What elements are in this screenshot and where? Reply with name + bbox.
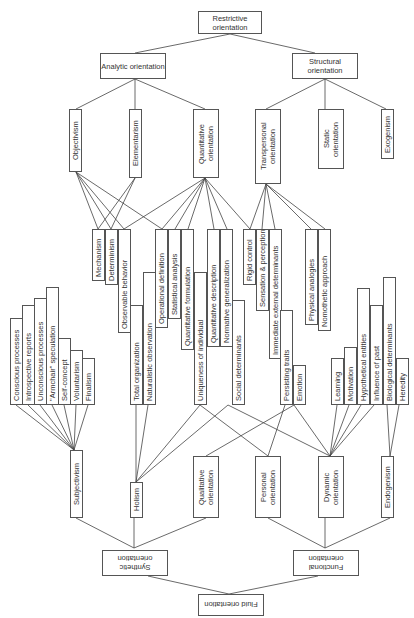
attr-quantitative-formulation: Quantitative formulation — [181, 229, 194, 350]
node-label: Static orientation — [322, 113, 340, 165]
attr-nomothetic-approach: Nomothetic approach — [318, 229, 331, 331]
attr-label: Uniqueness of individual — [196, 320, 205, 401]
attr-influence-of-past: Influence of past — [370, 305, 383, 405]
attr-label: Voluntarism — [72, 362, 81, 401]
node-dynamic-orientation: Dynamic orientation — [318, 456, 344, 518]
node-label: Structural orientation — [293, 57, 357, 75]
node-label: Subjectivism — [72, 463, 81, 505]
attr-label: Hypothetical entities — [359, 334, 368, 401]
attr-label: Biological determinants — [385, 323, 394, 401]
node-label: Restrictive orientation — [199, 14, 261, 32]
attr-label: Normative generalization — [222, 260, 231, 343]
attr-uniqueness-of-individual: Uniqueness of individual — [194, 272, 207, 405]
node-synthetic-orientation: Synthetic orientation — [102, 550, 168, 576]
node-holism: Holism — [130, 482, 143, 518]
node-quantitative-orientation: Quantitative orientation — [193, 109, 219, 178]
attr-motivation: Motivation — [344, 347, 357, 405]
attr-statistical-analysis: Statistical analysis — [168, 229, 181, 319]
node-qualitative-orientation: Qualitative orientation — [193, 456, 219, 518]
node-transpersonal-orientation: Transpersonal orientation — [255, 109, 281, 184]
node-label: Holism — [132, 489, 141, 512]
attr-emotion: Emotion — [293, 365, 306, 405]
node-personal-orientation: Personal orientation — [255, 456, 281, 518]
node-label: Functional orientation — [294, 554, 358, 572]
node-label: Elementarism — [131, 121, 140, 167]
attr-label: Determinism — [107, 239, 116, 281]
attr-hypothetical-entities: Hypothetical entities — [357, 288, 370, 405]
node-label: Analytic orientation — [101, 62, 164, 71]
attr-label: Introspective reports — [24, 333, 33, 401]
attr-label: Unconscious processes — [36, 322, 45, 401]
node-label: Transpersonal orientation — [259, 113, 277, 180]
attr-label: Heredity — [398, 373, 407, 401]
node-restrictive-orientation: Restrictive orientation — [198, 11, 262, 34]
attr-naturalistic-observation: Naturalistic observation — [143, 272, 156, 405]
attr-label: Physical analogies — [307, 259, 316, 321]
attr-label: Total organization — [132, 342, 141, 401]
attr-label: Immediate external determinants — [271, 246, 280, 355]
attr-label: Learning — [333, 372, 342, 401]
attr-label: Mechanism — [94, 239, 103, 277]
attr-biological-determinants: Biological determinants — [383, 277, 396, 405]
node-objectivism: Objectivism — [69, 109, 82, 172]
node-structural-orientation: Structural orientation — [292, 53, 358, 79]
attr-label: Sensation & perception — [258, 229, 267, 307]
attr-social-determinants: Social determinants — [232, 300, 245, 405]
attr-label: Rigid control — [245, 239, 254, 281]
attr-rigid-control: Rigid control — [243, 229, 256, 285]
node-elementarism: Elementarism — [129, 109, 142, 178]
node-exogenism: Exogenism — [381, 109, 394, 159]
node-fluid-orientation: Fluid orientation — [198, 594, 264, 616]
attr-label: Statistical analysis — [170, 254, 179, 315]
attr-physical-analogies: Physical analogies — [305, 229, 318, 325]
node-label: Qualitative orientation — [197, 460, 215, 514]
node-endogenism: Endogenism — [381, 456, 394, 518]
attr-label: Nomothetic approach — [320, 256, 329, 327]
attr-label: Self-concept — [60, 359, 69, 401]
attr-sensation-perception: Sensation & perception — [256, 229, 269, 311]
node-label: Objectivism — [71, 121, 80, 160]
attr-label: Conscious processes — [12, 330, 21, 401]
attr-mechanism: Mechanism — [92, 229, 105, 281]
attr-label: Influence of past — [372, 346, 381, 401]
attr-finalism: Finalism — [82, 358, 95, 405]
attr-total-organization: Total organization — [130, 305, 143, 405]
node-label: Endogenism — [383, 466, 392, 508]
node-subjectivism: Subjectivism — [70, 450, 83, 518]
node-analytic-orientation: Analytic orientation — [100, 53, 166, 79]
attr-label: "Armchair" speculation — [48, 326, 57, 401]
attr-operational-definition: Operational definition — [155, 229, 168, 328]
node-label: Fluid orientation — [204, 601, 257, 610]
attr-label: Quantitative formulation — [183, 267, 192, 346]
attr-heredity: Heredity — [396, 358, 409, 405]
node-label: Dynamic orientation — [322, 460, 340, 514]
attr-label: Operational definition — [157, 253, 166, 324]
attr-label: Motivation — [346, 367, 355, 401]
node-label: Synthetic orientation — [103, 554, 167, 572]
attr-label: Observable behavior — [120, 260, 129, 329]
attr-label: Quantitative description — [209, 265, 218, 343]
attr-label: Emotion — [295, 373, 304, 401]
attr-label: Naturalistic observation — [145, 323, 154, 401]
attr-label: Social determinants — [234, 335, 243, 401]
node-label: Personal orientation — [259, 460, 277, 514]
attr-label: Persisting traits — [282, 350, 291, 401]
attr-label: Finalism — [84, 373, 93, 401]
attr-determinism: Determinism — [105, 229, 118, 285]
attr-quantitative-description: Quantitative description — [207, 229, 220, 347]
attr-learning: Learning — [331, 358, 344, 405]
attr-persisting-traits: Persisting traits — [280, 310, 293, 405]
node-label: Exogenism — [383, 115, 392, 152]
node-functional-orientation: Functional orientation — [293, 550, 359, 576]
node-label: Quantitative orientation — [197, 113, 215, 174]
node-static-orientation: Static orientation — [318, 109, 344, 169]
